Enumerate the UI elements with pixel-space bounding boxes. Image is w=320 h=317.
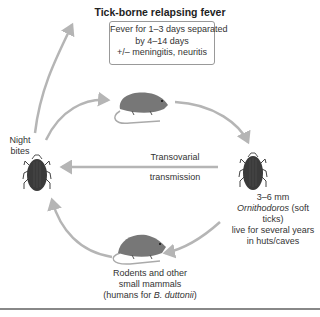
night-bites-line-2: bites (2, 146, 38, 157)
tick-habitat: in huts/caves (226, 236, 320, 247)
transovarial-line-1: Transovarial (130, 152, 220, 163)
diagram-title: Tick-borne relapsing fever (0, 6, 320, 18)
transovarial-line-2: transmission (130, 172, 220, 183)
rodent-line-1: Rodents and other (80, 268, 220, 279)
symptoms-line-3: +/– meningitis, neuritis (110, 47, 214, 59)
night-bites-label: Night bites (2, 135, 38, 157)
left-tick-icon (23, 155, 51, 191)
symptoms-line-2: by 4–14 days (110, 36, 214, 48)
rodent-description: Rodents and other small mammals (humans … (80, 268, 220, 301)
arrow-to-symptoms (35, 25, 72, 133)
arrow-rodent-to-tick (175, 102, 248, 142)
arrow-tick-to-bottom-rodent (165, 222, 220, 253)
tick-lifespan: live for several years (226, 225, 320, 236)
bottom-rodent-icon (113, 235, 166, 264)
symptoms-line-1: Fever for 1–3 days separated (110, 24, 214, 36)
bottom-rule (0, 308, 320, 310)
transovarial-label: Transovarial transmission (130, 152, 220, 183)
night-bites-line-1: Night (2, 135, 38, 146)
rodent-line-3: (humans for B. duttonii) (80, 290, 220, 301)
arrow-bottom-rodent-to-tick (52, 200, 112, 257)
tick-genus-line: Ornithodoros (soft ticks) (226, 203, 320, 225)
species-name: B. duttonii (154, 290, 194, 300)
rodent-line-2: small mammals (80, 279, 220, 290)
arrow-tick-to-rodent (46, 100, 108, 140)
rodent-line-3-prefix: (humans for (103, 290, 154, 300)
tick-size: 3–6 mm (226, 192, 320, 203)
symptoms-box: Fever for 1–3 days separated by 4–14 day… (109, 21, 215, 65)
top-rodent-icon (115, 93, 168, 124)
tick-genus: Ornithodoros (237, 203, 289, 213)
tick-description: 3–6 mm Ornithodoros (soft ticks) live fo… (226, 192, 320, 247)
rodent-line-3-suffix: ) (194, 290, 197, 300)
right-tick-icon (239, 153, 267, 190)
